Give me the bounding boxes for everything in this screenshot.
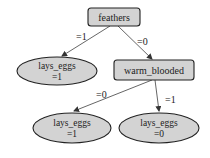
node-value: =0 — [154, 129, 164, 139]
node-label: lays_eggs — [140, 118, 178, 128]
edge-root-to-warm: =0 — [118, 26, 152, 59]
edge-label: =1 — [165, 94, 176, 105]
node-label: feathers — [98, 12, 130, 23]
edge-label: =0 — [96, 89, 107, 100]
edge-warm-to-bl: =0 — [74, 80, 152, 111]
node-lays-eggs-bottom-left: lays_eggs =1 — [33, 113, 111, 143]
node-value: =1 — [52, 72, 62, 82]
node-warm-blooded: warm_blooded — [114, 60, 194, 80]
node-value: =1 — [67, 129, 77, 139]
node-label: lays_eggs — [38, 61, 76, 71]
edge-label: =1 — [76, 31, 87, 42]
edge-warm-to-br: =1 — [155, 80, 176, 111]
node-lays-eggs-left: lays_eggs =1 — [17, 57, 97, 85]
decision-tree-diagram: =1 =0 =0 =1 feathers lays_eggs =1 warm_b… — [0, 0, 210, 158]
node-label: warm_blooded — [124, 65, 184, 76]
node-lays-eggs-bottom-right: lays_eggs =0 — [119, 113, 199, 143]
node-feathers: feathers — [88, 8, 140, 26]
edge-label: =0 — [137, 36, 148, 47]
node-label: lays_eggs — [53, 118, 91, 128]
edge-root-to-left: =1 — [62, 26, 110, 56]
